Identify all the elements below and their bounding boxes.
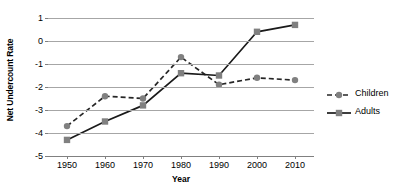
data-point-adults-2000 (254, 29, 260, 35)
x-tick-label: 2010 (285, 160, 305, 170)
x-tick-mark (105, 156, 106, 159)
x-tick-mark (219, 156, 220, 159)
y-tick-mark (45, 110, 48, 111)
gridline (48, 110, 314, 111)
legend-label: Children (355, 88, 389, 98)
gridline (48, 18, 314, 19)
x-tick-mark (257, 156, 258, 159)
y-tick-label: 0 (38, 36, 43, 46)
legend-key-icon (326, 87, 352, 99)
gridline (48, 87, 314, 88)
data-point-adults-1960 (102, 118, 108, 124)
legend-item-adults[interactable]: Adults (326, 102, 406, 120)
y-tick-label: -1 (35, 59, 43, 69)
data-point-adults-1990 (216, 72, 222, 78)
data-point-children-1960 (102, 93, 108, 99)
y-tick-label: 1 (38, 13, 43, 23)
x-tick-mark (181, 156, 182, 159)
x-tick-label: 2000 (247, 160, 267, 170)
gridline (48, 64, 314, 65)
x-tick-label: 1990 (209, 160, 229, 170)
data-point-children-1980 (178, 54, 184, 60)
y-tick-mark (45, 87, 48, 88)
x-tick-mark (295, 156, 296, 159)
gridline (48, 133, 314, 134)
y-tick-label: -4 (35, 128, 43, 138)
series-line-children (67, 57, 295, 126)
y-tick-label: -2 (35, 82, 43, 92)
series-line-adults (67, 25, 295, 140)
x-tick-label: 1950 (57, 160, 77, 170)
y-tick-label: -3 (35, 105, 43, 115)
x-tick-label: 1960 (95, 160, 115, 170)
y-tick-label: -5 (35, 151, 43, 161)
x-axis-title-text: Year (172, 174, 190, 184)
x-tick-label: 1970 (133, 160, 153, 170)
x-tick-mark (143, 156, 144, 159)
data-point-adults-1980 (178, 70, 184, 76)
y-tick-mark (45, 64, 48, 65)
gridline (48, 41, 314, 42)
y-tick-mark (45, 41, 48, 42)
data-point-adults-1950 (64, 137, 70, 143)
data-point-adults-2010 (292, 22, 298, 28)
legend-label: Adults (355, 106, 380, 116)
chart-figure: Net Undercount Rate 10-1-2-3-4-519501960… (0, 0, 407, 195)
data-point-children-1950 (64, 123, 70, 129)
y-tick-mark (45, 133, 48, 134)
legend-item-children[interactable]: Children (326, 84, 406, 102)
data-point-children-2000 (254, 75, 260, 81)
data-point-children-1970 (140, 95, 146, 101)
data-point-adults-1970 (140, 102, 146, 108)
y-axis-title-text: Net Undercount Rate (5, 39, 15, 122)
y-axis-title: Net Undercount Rate (0, 0, 20, 160)
y-tick-mark (45, 156, 48, 157)
y-tick-mark (45, 18, 48, 19)
data-point-children-2010 (292, 77, 298, 83)
chart-legend: ChildrenAdults (326, 84, 406, 120)
legend-key-icon (326, 105, 352, 117)
x-tick-label: 1980 (171, 160, 191, 170)
x-tick-mark (67, 156, 68, 159)
plot-area: 10-1-2-3-4-51950196019701980199020002010 (48, 18, 314, 156)
x-axis-title: Year (48, 174, 314, 184)
